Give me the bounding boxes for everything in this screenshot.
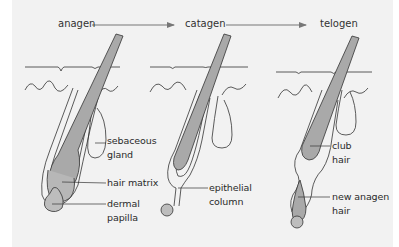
label-club-hair: club hair: [332, 139, 352, 167]
stage-label-telogen: telogen: [320, 18, 358, 29]
label-epithelial-column: epithelial column: [209, 181, 252, 209]
label-dermal-papilla: dermal papilla: [107, 197, 140, 225]
label-line: papilla: [107, 211, 140, 225]
label-line: gland: [107, 148, 157, 162]
label-line: hair: [332, 204, 389, 218]
label-line: club: [332, 139, 352, 153]
stage-label-catagen: catagen: [185, 18, 226, 29]
label-new-anagen-hair: new anagen hair: [332, 190, 389, 218]
telogen-new-anagen-hair: [291, 180, 306, 228]
label-hair-matrix: hair matrix: [107, 176, 158, 190]
label-line: new anagen: [332, 190, 389, 204]
label-line: hair: [332, 153, 352, 167]
label-sebaceous-gland: sebaceous gland: [107, 134, 157, 162]
label-line: dermal: [107, 197, 140, 211]
label-line: sebaceous: [107, 134, 157, 148]
stage-label-anagen: anagen: [58, 18, 95, 29]
label-line: epithelial: [209, 181, 252, 195]
label-line: column: [209, 195, 252, 209]
label-line: hair matrix: [107, 176, 158, 190]
